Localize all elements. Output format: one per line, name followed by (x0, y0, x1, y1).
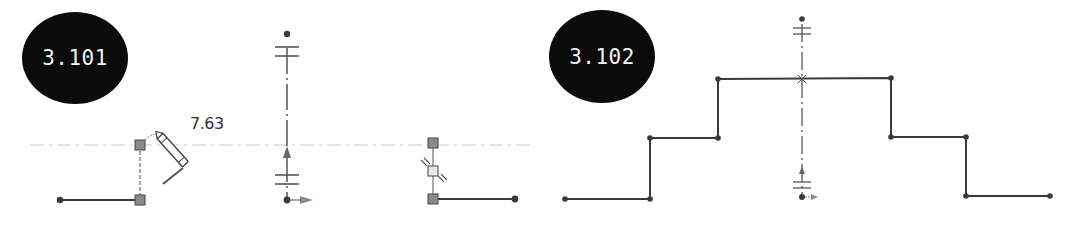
vertex-point-icon[interactable] (562, 196, 568, 202)
selected-handle-icon[interactable] (428, 194, 438, 204)
selected-handle-icon[interactable] (135, 195, 145, 205)
vertex-point-icon[interactable] (715, 135, 721, 141)
stepped-profile-symmetric[interactable] (562, 16, 1053, 202)
vertex-point-icon[interactable] (647, 135, 653, 141)
midpoint-marker-icon (441, 174, 447, 180)
origin-point-icon[interactable] (284, 197, 291, 204)
profile-polyline[interactable] (565, 78, 1050, 199)
midpoint-handle-icon[interactable] (428, 166, 438, 176)
y-axis-arrow-icon (799, 166, 805, 174)
midpoint-marker-icon (438, 176, 444, 182)
vertex-point-icon[interactable] (963, 134, 969, 140)
vertex-point-icon[interactable] (963, 193, 969, 199)
sketch-line-with-pencil[interactable] (57, 129, 189, 205)
y-axis-arrow-icon (283, 146, 291, 158)
endpoint-icon[interactable] (799, 16, 805, 22)
pencil-cursor-icon (153, 129, 188, 167)
x-axis-arrow-icon (300, 196, 313, 204)
vertex-point-icon[interactable] (715, 76, 721, 82)
vertex-point-icon[interactable] (647, 196, 653, 202)
vertex-point-icon[interactable] (1047, 193, 1053, 199)
selected-handle-icon[interactable] (135, 140, 145, 150)
midpoint-marker-icon (421, 160, 427, 166)
endpoint-icon[interactable] (512, 196, 519, 203)
origin-point-icon[interactable] (799, 194, 805, 200)
endpoint-icon[interactable] (284, 31, 290, 37)
endpoint-icon[interactable] (57, 197, 63, 203)
x-axis-arrow-icon (811, 194, 818, 200)
vertex-point-icon[interactable] (888, 75, 894, 81)
corner-with-midpoint-constraint[interactable] (421, 138, 518, 204)
selected-handle-icon[interactable] (428, 138, 438, 148)
line-cursor-icon (163, 168, 183, 184)
vertex-point-icon[interactable] (888, 134, 894, 140)
midpoint-marker-icon (424, 158, 430, 164)
centerline-with-symmetry[interactable] (275, 31, 313, 204)
sketch-canvas[interactable] (0, 0, 1075, 226)
profile-vertices (562, 75, 1053, 202)
